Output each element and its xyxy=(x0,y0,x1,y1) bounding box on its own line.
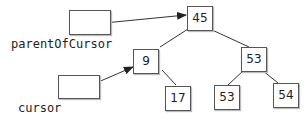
tree-node-9: 9 xyxy=(133,49,159,74)
tree-node-53-left: 53 xyxy=(214,85,240,110)
parent-of-cursor-box xyxy=(69,10,111,35)
tree-node-17: 17 xyxy=(165,86,191,111)
tree-node-45: 45 xyxy=(187,6,213,31)
parent-of-cursor-label: parentOfCursor xyxy=(11,37,112,51)
tree-node-53-right: 53 xyxy=(241,47,267,72)
tree-node-54: 54 xyxy=(273,83,299,108)
cursor-box xyxy=(58,75,100,99)
cursor-label: cursor xyxy=(18,101,61,115)
